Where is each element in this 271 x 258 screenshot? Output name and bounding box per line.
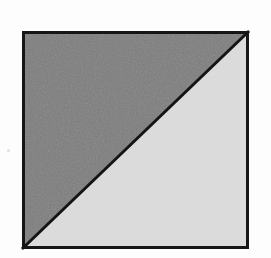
square-diagonal-diagram <box>0 0 271 258</box>
margin-speck <box>7 149 10 152</box>
figure-container <box>0 0 271 258</box>
